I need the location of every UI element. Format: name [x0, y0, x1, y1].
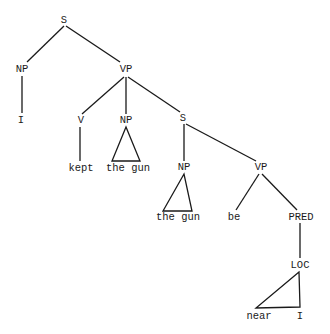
constituent-triangle [163, 174, 192, 211]
tree-branches [0, 0, 330, 334]
node-v: V [78, 115, 84, 126]
leaf-the-gun-object: the gun [106, 163, 150, 174]
tree-edge [27, 26, 64, 62]
tree-edge [128, 77, 180, 112]
node-np-subject: NP [16, 64, 29, 75]
tree-edge [236, 174, 259, 210]
constituent-triangle [112, 127, 140, 161]
tree-edge [186, 124, 256, 161]
node-s-embedded: S [180, 113, 186, 124]
constituent-triangle [256, 272, 300, 308]
tree-edge [262, 174, 297, 210]
leaf-the-gun-embedded: the gun [156, 212, 200, 223]
tree-edge [82, 77, 124, 114]
node-vp-main: VP [120, 64, 133, 75]
leaf-be: be [228, 212, 241, 223]
tree-edge [66, 26, 120, 62]
leaf-kept: kept [68, 163, 93, 174]
leaf-near: near [246, 311, 271, 322]
node-np-embedded: NP [178, 162, 191, 173]
node-loc: LOC [291, 260, 310, 271]
node-vp-embedded: VP [255, 162, 268, 173]
leaf-i-loc: I [297, 311, 303, 322]
node-pred: PRED [288, 212, 313, 223]
node-s-root: S [61, 15, 67, 26]
node-np-object: NP [120, 115, 133, 126]
leaf-i-subject: I [18, 115, 24, 126]
